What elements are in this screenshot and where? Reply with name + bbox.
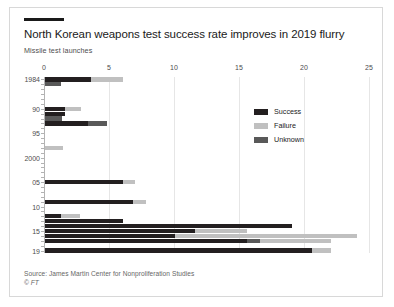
y-tick-mark-1994	[41, 128, 44, 129]
y-tick-mark-2013	[41, 221, 44, 222]
y-tick-label-2005: 05	[32, 179, 40, 186]
y-tick-mark-1995	[41, 133, 44, 134]
x-tick-0: 0	[42, 64, 46, 71]
y-tick-mark-2000	[41, 158, 44, 159]
chart-plot: 0510152025 19849095200005101519	[44, 64, 369, 253]
bar-segment-unknown	[45, 116, 62, 120]
y-tick-mark-1984	[41, 79, 44, 80]
y-tick-mark-2003	[41, 172, 44, 173]
bar-row	[45, 121, 107, 125]
bar-segment-success	[45, 229, 195, 233]
bar-segment-unknown	[88, 121, 108, 125]
bar-segment-failure	[65, 107, 82, 111]
copyright-note: © FT	[24, 279, 194, 286]
y-tick-label-2010: 10	[32, 203, 40, 210]
legend-swatch-unknown	[254, 137, 268, 143]
bar-segment-failure	[175, 234, 357, 238]
y-tick-mark-2008	[41, 197, 44, 198]
chart-subtitle: Missile test launches	[24, 46, 92, 55]
y-tick-mark-2002	[41, 167, 44, 168]
bar-row	[45, 200, 146, 204]
bar-row	[45, 239, 331, 243]
legend-label-failure: Failure	[274, 121, 296, 130]
bar-segment-failure	[91, 77, 124, 81]
y-tick-mark-1986	[41, 89, 44, 90]
y-tick-mark-2014	[41, 226, 44, 227]
chart-footer: Source: James Martin Center for Nonproli…	[24, 270, 194, 286]
chart-title: North Korean weapons test success rate i…	[24, 27, 372, 41]
bar-segment-success	[45, 180, 123, 184]
bar-row	[45, 229, 247, 233]
y-tick-mark-2007	[41, 192, 44, 193]
y-tick-mark-2001	[41, 163, 44, 164]
y-tick-mark-1988	[41, 99, 44, 100]
bar-row	[45, 146, 63, 150]
bar-segment-success	[45, 112, 65, 116]
bar-segment-success	[45, 239, 247, 243]
bar-row	[45, 214, 80, 218]
y-tick-mark-1992	[41, 119, 44, 120]
gridline-20	[304, 77, 305, 253]
y-tick-label-1990: 90	[32, 105, 40, 112]
bar-segment-failure	[260, 239, 332, 243]
chart-legend: Success Failure Unknown	[254, 107, 304, 149]
x-tick-20: 20	[300, 64, 308, 71]
bar-segment-unknown	[247, 239, 260, 243]
y-tick-mark-2006	[41, 187, 44, 188]
bar-segment-success	[45, 248, 312, 252]
bar-row	[45, 82, 61, 86]
bar-segment-success	[45, 214, 61, 218]
bar-segment-success	[45, 107, 65, 111]
y-tick-mark-1991	[41, 114, 44, 115]
bar-segment-success	[45, 77, 91, 81]
y-tick-label-1984: 1984	[24, 76, 40, 83]
y-tick-mark-2019	[41, 251, 44, 252]
bar-row	[45, 107, 81, 111]
y-tick-mark-2018	[41, 246, 44, 247]
y-tick-label-2019: 19	[32, 247, 40, 254]
y-tick-mark-1999	[41, 153, 44, 154]
legend-item-unknown: Unknown	[254, 135, 304, 144]
legend-label-unknown: Unknown	[274, 135, 304, 144]
bar-row	[45, 180, 135, 184]
bar-segment-failure	[123, 180, 135, 184]
y-tick-mark-2010	[41, 207, 44, 208]
bar-segment-success	[45, 234, 175, 238]
legend-item-failure: Failure	[254, 121, 304, 130]
bar-row	[45, 112, 65, 116]
y-tick-label-2015: 15	[32, 228, 40, 235]
y-tick-mark-1987	[41, 94, 44, 95]
y-tick-mark-2005	[41, 182, 44, 183]
legend-swatch-failure	[254, 123, 268, 129]
chart-card: North Korean weapons test success rate i…	[9, 7, 383, 297]
y-tick-mark-2016	[41, 236, 44, 237]
y-tick-label-1995: 95	[32, 130, 40, 137]
y-tick-mark-1993	[41, 123, 44, 124]
bar-row	[45, 248, 331, 252]
bar-row	[45, 77, 123, 81]
y-tick-mark-2017	[41, 241, 44, 242]
bar-segment-unknown	[45, 82, 61, 86]
y-tick-mark-2009	[41, 202, 44, 203]
bar-segment-failure	[195, 229, 247, 233]
bar-row	[45, 219, 123, 223]
gridline-25	[369, 77, 370, 253]
bar-segment-success	[45, 121, 88, 125]
y-tick-mark-2004	[41, 177, 44, 178]
bar-segment-failure	[312, 248, 332, 252]
y-tick-mark-2011	[41, 211, 44, 212]
bar-row	[45, 116, 62, 120]
plot-area: 19849095200005101519	[44, 77, 369, 253]
bar-segment-success	[45, 200, 133, 204]
x-tick-10: 10	[170, 64, 178, 71]
bar-row	[45, 234, 357, 238]
bar-segment-success	[45, 219, 123, 223]
bar-segment-failure	[45, 146, 63, 150]
bar-segment-failure	[133, 200, 146, 204]
y-tick-mark-1989	[41, 104, 44, 105]
y-tick-mark-2015	[41, 231, 44, 232]
y-tick-mark-2012	[41, 216, 44, 217]
bar-segment-success	[45, 224, 292, 228]
legend-swatch-success	[254, 109, 268, 115]
x-tick-15: 15	[235, 64, 243, 71]
